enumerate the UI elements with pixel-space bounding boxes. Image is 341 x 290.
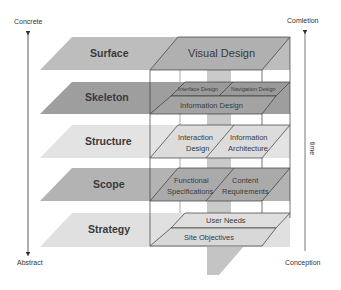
interaction-design-label-1: Interaction bbox=[178, 133, 213, 142]
elements-of-ux-diagram: Concrete Abstract Comletion Conception t… bbox=[0, 0, 341, 290]
left-axis: Concrete Abstract bbox=[14, 18, 43, 266]
visual-design-label: Visual Design bbox=[188, 47, 255, 59]
layer-strategy-label: Strategy bbox=[88, 223, 130, 235]
content-requirements-label-2: Requirements bbox=[222, 187, 269, 196]
navigation-design-label: Navigation Design bbox=[231, 86, 276, 92]
concrete-label: Concrete bbox=[14, 18, 43, 25]
content-requirements-label-1: Content bbox=[232, 176, 259, 185]
layer-scope-label: Scope bbox=[93, 178, 125, 190]
abstract-label: Abstract bbox=[17, 259, 43, 266]
information-architecture-label-1: Information bbox=[230, 133, 268, 142]
interaction-design-label-2: Design bbox=[186, 144, 209, 153]
interface-design-label: Interface Design bbox=[178, 86, 218, 92]
site-objectives-label: Site Objectives bbox=[184, 233, 234, 242]
functional-specs-label-1: Functional bbox=[174, 176, 209, 185]
functional-specs-label-2: Specifications bbox=[167, 187, 214, 196]
layer-surface-label: Surface bbox=[90, 47, 129, 59]
layer-structure-label: Structure bbox=[85, 135, 132, 147]
conception-label: Conception bbox=[285, 259, 321, 267]
completion-label: Comletion bbox=[287, 17, 319, 24]
information-design-label: Information Design bbox=[180, 101, 243, 110]
user-needs-label: User Needs bbox=[206, 216, 246, 225]
layer-skeleton-label: Skeleton bbox=[85, 91, 129, 103]
information-architecture-label-2: Architecture bbox=[228, 144, 268, 153]
time-label: time bbox=[309, 142, 316, 155]
